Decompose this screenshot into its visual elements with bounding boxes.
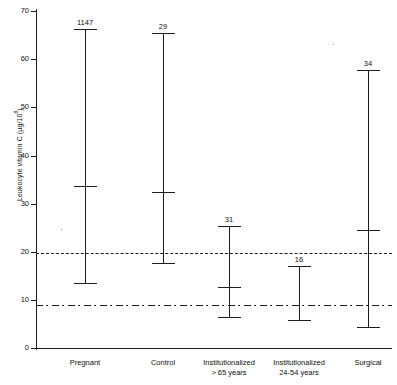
chart-figure: 70 60 50 40 30 20 10 0 Leukocyte vitamin… — [0, 0, 397, 385]
error-bar-stem-pregnant — [85, 29, 86, 283]
error-bar-cap-min-institutionalized-over-65 — [218, 317, 241, 318]
error-bar-stem-institutionalized-over-65 — [229, 226, 230, 317]
reference-line-upper — [36, 253, 392, 254]
error-bar-stem-institutionalized-24-54 — [299, 266, 300, 320]
error-bar-stem-control — [163, 33, 164, 263]
reference-line-lower — [36, 305, 392, 306]
y-axis-title-tail: ) — [16, 108, 23, 110]
y-tick-0 — [31, 348, 37, 349]
error-bar-cap-min-control — [152, 263, 175, 264]
y-tick-label-70: 70 — [5, 7, 29, 15]
error-bar-cap-min-pregnant — [74, 283, 97, 284]
error-bar-label-institutionalized-over-65: 31 — [211, 215, 247, 224]
y-axis-title-exponent: 8 — [13, 111, 19, 114]
scan-speck — [61, 229, 62, 230]
y-axis-line — [36, 9, 37, 350]
x-label-institutionalized-24-54: Institutionalized 24-54 years — [256, 358, 342, 378]
y-tick-label-60: 60 — [5, 55, 29, 63]
y-tick-10 — [31, 300, 37, 301]
error-bar-stem-surgical — [368, 70, 369, 327]
x-label-institutionalized-24-54-line1: Institutionalized — [273, 358, 325, 367]
error-bar-cap-mean-institutionalized-over-65 — [218, 287, 241, 288]
error-bar-cap-min-surgical — [357, 327, 380, 328]
y-tick-label-20: 20 — [5, 248, 29, 256]
scan-speck — [333, 44, 334, 45]
error-bar-cap-mean-control — [152, 192, 175, 193]
y-tick-60 — [31, 59, 37, 60]
x-axis-line — [36, 348, 392, 349]
x-label-pregnant: Pregnant — [45, 358, 125, 368]
y-tick-label-0: 0 — [5, 344, 29, 352]
y-tick-70 — [31, 11, 37, 12]
y-axis-title: Leukocyte vitamin C (µg/108) — [13, 85, 22, 225]
error-bar-label-pregnant: 1147 — [67, 18, 103, 27]
y-tick-30 — [31, 204, 37, 205]
y-tick-label-10: 10 — [5, 296, 29, 304]
error-bar-cap-min-institutionalized-24-54 — [288, 320, 311, 321]
y-tick-40 — [31, 156, 37, 157]
y-axis-title-text: Leukocyte vitamin C (µg/10 — [16, 114, 23, 202]
error-bar-label-control: 29 — [145, 22, 181, 31]
error-bar-label-surgical: 34 — [350, 59, 386, 68]
x-label-pregnant-line1: Pregnant — [70, 358, 100, 367]
x-label-institutionalized-24-54-line2: 24-54 years — [256, 368, 342, 378]
y-tick-50 — [31, 107, 37, 108]
x-label-surgical-line1: Surgical — [354, 358, 381, 367]
x-label-institutionalized-over-65-line1: Institutionalized — [203, 358, 255, 367]
error-bar-cap-mean-pregnant — [74, 186, 97, 187]
error-bar-cap-mean-surgical — [357, 230, 380, 231]
x-label-surgical: Surgical — [338, 358, 397, 368]
error-bar-label-institutionalized-24-54: 16 — [281, 255, 317, 264]
x-label-control-line1: Control — [151, 358, 175, 367]
